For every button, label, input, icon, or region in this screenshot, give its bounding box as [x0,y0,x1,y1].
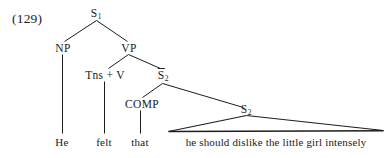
node-s1-label: S [91,7,98,19]
branch-sbar2-s2 [163,84,244,108]
triangle-left-edge [169,116,247,132]
node-tns-plus-v-label: Tns + V [85,69,125,81]
node-comp-label: COMP [125,98,159,110]
node-np: NP [55,43,70,55]
node-s2-subscript: 2 [248,108,252,117]
terminal-embedded-clause: he should dislike the little girl intens… [186,137,367,148]
branch-s1-np [65,21,97,42]
node-vp-label: VP [121,42,136,54]
node-s2: S2 [241,104,251,116]
node-np-label: NP [55,42,70,54]
terminal-felt: felt [96,137,112,148]
terminal-he: He [55,137,68,148]
terminal-that: that [131,137,149,148]
triangle-base [169,131,384,132]
node-s1-subscript: 1 [98,12,102,21]
branch-vp-tnsv [109,55,129,69]
node-sbar2-label: S [158,70,165,82]
node-s1: S1 [91,8,101,20]
node-s2-label: S [241,103,248,115]
node-tns-plus-v: Tns + V [85,70,125,82]
syntax-tree-figure: (129) S1 NP VP Tns + V S2 COMP S2 He fel… [0,0,387,158]
branch-sbar2-comp [143,84,163,98]
node-sbar2: S2 [158,70,168,82]
node-sbar2-subscript: 2 [165,74,169,83]
branch-s1-vp [97,21,128,42]
branch-vp-sbar2 [129,55,161,69]
node-comp: COMP [125,99,159,111]
triangle-right-edge [247,116,384,131]
node-vp: VP [121,43,136,55]
tree-branch-lines [0,0,387,158]
example-number: (129) [12,12,42,26]
